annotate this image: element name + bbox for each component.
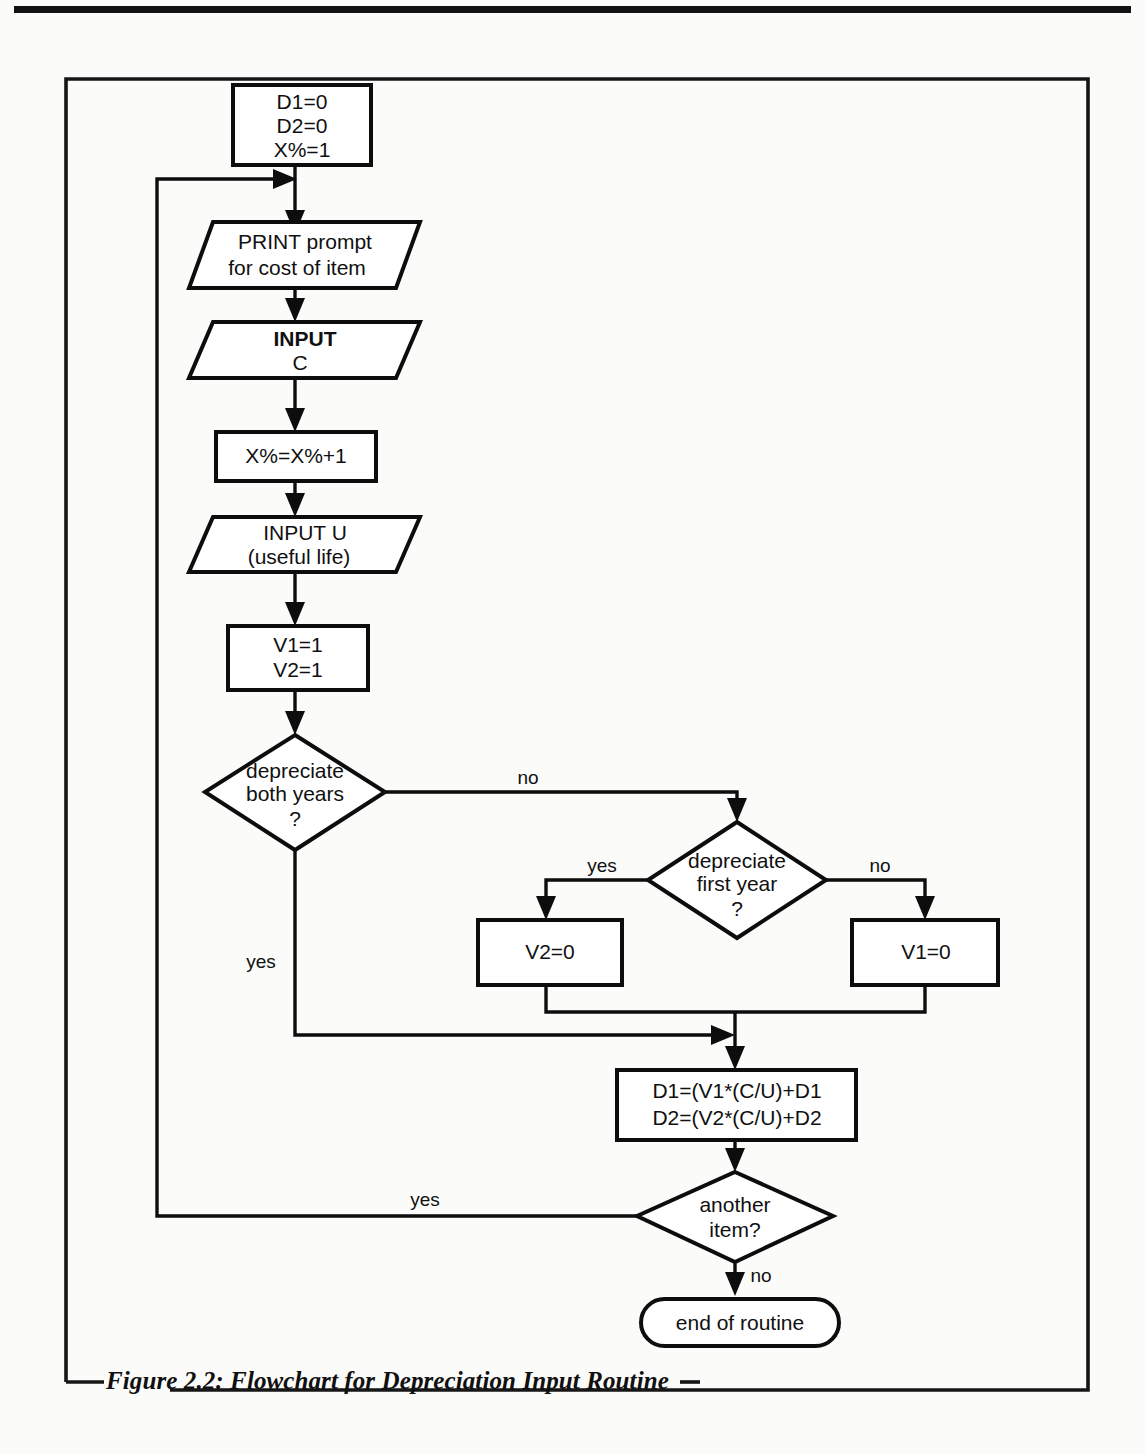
node-input-c: INPUT C xyxy=(189,322,420,378)
calc-d-line-1: D1=(V1*(C/U)+D1 xyxy=(652,1079,821,1102)
input-u-line-2: (useful life) xyxy=(248,545,351,568)
dec-both-line-1: depreciate xyxy=(246,759,344,782)
node-print-cost: PRINT prompt for cost of item xyxy=(189,222,420,288)
dec-first-line-2: first year xyxy=(697,872,778,895)
input-u-line-1: INPUT U xyxy=(263,521,347,544)
print-cost-line-2: for cost of item xyxy=(228,256,366,279)
print-cost-line-1: PRINT prompt xyxy=(238,230,372,253)
label-no-another-item: no xyxy=(750,1265,771,1286)
arrowhead-calc-to-another xyxy=(725,1148,745,1172)
input-u-rest: U xyxy=(326,521,347,544)
incr-x-line-1: X%=X%+1 xyxy=(245,444,347,467)
arrowhead-inputu-to-setv xyxy=(285,602,305,626)
arrowhead-decboth-yes xyxy=(711,1025,735,1045)
input-u-keyword: INPUT xyxy=(263,521,326,544)
arrowhead-decboth-no xyxy=(727,798,747,822)
figure-page: D1=0 D2=0 X%=1 PRINT prompt for cost of … xyxy=(0,0,1145,1454)
label-yes-both-years: yes xyxy=(246,951,276,972)
init-line-1: D1=0 xyxy=(277,90,328,113)
label-yes-first-year: yes xyxy=(587,855,617,876)
another-line-2: item? xyxy=(709,1218,760,1241)
arrowhead-print-to-input-c xyxy=(285,298,305,322)
arrowhead-inputc-to-incrx xyxy=(285,408,305,432)
edge-v1zero-to-calc xyxy=(735,985,925,1012)
node-dec-first: depreciate first year ? xyxy=(648,822,826,938)
arrowhead-decfirst-no xyxy=(915,896,935,920)
node-v1-zero: V1=0 xyxy=(852,920,998,985)
edge-decfirst-yes xyxy=(546,880,648,908)
figure-caption: Figure 2.2: Flowchart for Depreciation I… xyxy=(106,1367,669,1395)
calc-d-line-2: D2=(V2*(C/U)+D2 xyxy=(652,1106,821,1129)
set-v-line-2: V2=1 xyxy=(273,658,323,681)
arrowhead-merge-to-calc xyxy=(725,1046,745,1070)
flowchart-svg: D1=0 D2=0 X%=1 PRINT prompt for cost of … xyxy=(0,0,1145,1454)
v1-zero-line-1: V1=0 xyxy=(901,940,951,963)
node-calc-d: D1=(V1*(C/U)+D1 D2=(V2*(C/U)+D2 xyxy=(617,1070,856,1140)
node-init: D1=0 D2=0 X%=1 xyxy=(233,85,371,165)
another-line-1: another xyxy=(699,1193,770,1216)
node-another: another item? xyxy=(637,1172,833,1262)
dec-both-line-2: both years xyxy=(246,782,344,805)
dec-both-line-3: ? xyxy=(289,807,301,830)
edge-decboth-no xyxy=(385,792,737,810)
init-line-2: D2=0 xyxy=(277,114,328,137)
label-yes-another-item: yes xyxy=(410,1189,440,1210)
dec-first-line-1: depreciate xyxy=(688,849,786,872)
node-dec-both: depreciate both years ? xyxy=(205,735,385,850)
arrowhead-setv-to-decboth xyxy=(285,711,305,735)
edge-decfirst-no xyxy=(826,880,925,908)
arrowhead-incrx-to-inputu xyxy=(285,493,305,517)
label-no-first-year: no xyxy=(869,855,890,876)
node-v2-zero: V2=0 xyxy=(478,920,622,985)
input-c-keyword: INPUT xyxy=(274,327,337,350)
print-keyword: PRINT xyxy=(238,230,301,253)
edge-v2zero-to-calc xyxy=(546,985,735,1012)
input-c-line-2: C xyxy=(292,351,307,374)
dec-first-line-3: ? xyxy=(731,897,743,920)
print-rest: prompt xyxy=(301,230,372,253)
flowchart-figure: D1=0 D2=0 X%=1 PRINT prompt for cost of … xyxy=(0,0,1145,1454)
end-line-1: end of routine xyxy=(676,1311,804,1334)
node-set-v: V1=1 V2=1 xyxy=(228,626,368,690)
node-input-u: INPUT U (useful life) xyxy=(189,517,420,572)
init-line-3: X%=1 xyxy=(274,138,331,161)
set-v-line-1: V1=1 xyxy=(273,633,323,656)
node-end: end of routine xyxy=(641,1299,839,1346)
arrowhead-another-to-end xyxy=(725,1272,745,1296)
arrowhead-decfirst-yes xyxy=(536,896,556,920)
node-incr-x: X%=X%+1 xyxy=(216,432,376,481)
label-no-both-years: no xyxy=(517,767,538,788)
v2-zero-line-1: V2=0 xyxy=(525,940,575,963)
